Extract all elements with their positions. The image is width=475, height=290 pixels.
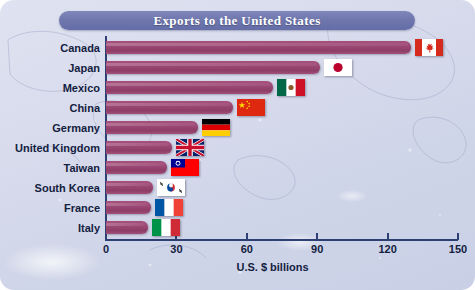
bar (106, 41, 411, 54)
bar-row: France (0, 198, 475, 218)
category-label: Japan (0, 58, 100, 78)
flag-mexico-icon (277, 79, 305, 96)
x-tick-label: 60 (241, 243, 253, 255)
flag-france-icon (155, 199, 183, 216)
bar-row: Mexico (0, 78, 475, 98)
flag-taiwan-icon (171, 159, 199, 176)
category-label: Canada (0, 38, 100, 58)
category-label: Mexico (0, 78, 100, 98)
bar-row: Japan (0, 58, 475, 78)
bar-row: Canada (0, 38, 475, 58)
bar-row: Taiwan (0, 158, 475, 178)
bar (106, 121, 198, 134)
x-axis-line (105, 239, 458, 241)
x-axis-title: U.S. $ billions (0, 261, 475, 273)
bar (106, 141, 172, 154)
x-tick-label: 30 (170, 243, 182, 255)
bar-row: Italy (0, 218, 475, 238)
category-label: Taiwan (0, 158, 100, 178)
x-tick-label: 120 (378, 243, 396, 255)
bar-row: China (0, 98, 475, 118)
category-label: United Kingdom (0, 138, 100, 158)
bar-row: South Korea (0, 178, 475, 198)
category-label: Italy (0, 218, 100, 238)
bar (106, 201, 151, 214)
chart-figure: Exports to the United States 03060901201… (0, 0, 475, 290)
bar (106, 181, 153, 194)
bar (106, 221, 148, 234)
bar (106, 61, 320, 74)
x-tick-label: 150 (449, 243, 467, 255)
category-label: China (0, 98, 100, 118)
bar (106, 101, 233, 114)
flag-germany-icon (202, 119, 230, 136)
bar-row: Germany (0, 118, 475, 138)
bar (106, 161, 167, 174)
category-label: Germany (0, 118, 100, 138)
flag-china-icon (237, 99, 265, 116)
bar (106, 81, 273, 94)
flag-canada-icon (415, 39, 443, 56)
flag-italy-icon (152, 219, 180, 236)
x-tick-label: 90 (311, 243, 323, 255)
flag-south-korea-icon (157, 179, 185, 196)
bar-row: United Kingdom (0, 138, 475, 158)
x-tick-label: 0 (103, 243, 109, 255)
flag-united-kingdom-icon (176, 139, 204, 156)
category-label: South Korea (0, 178, 100, 198)
flag-japan-icon (324, 59, 352, 76)
plot-area: 0306090120150 CanadaJapanMexicoChinaGerm… (0, 0, 475, 290)
category-label: France (0, 198, 100, 218)
